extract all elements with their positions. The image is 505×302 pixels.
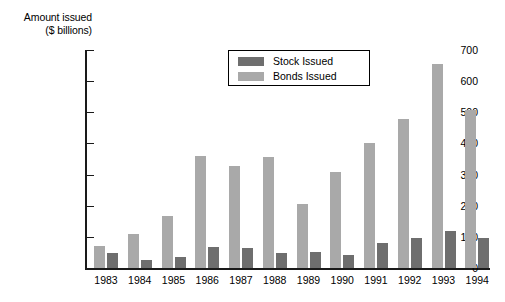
bar-bonds-1989: [297, 204, 308, 268]
legend-item-stock: Stock Issued: [238, 55, 369, 68]
y-tick-300: [87, 175, 94, 176]
bar-stock-1992: [411, 238, 422, 268]
y-tick-500: [87, 112, 94, 113]
x-axis-label-1994: 1994: [453, 274, 501, 286]
bar-stock-1991: [377, 243, 388, 268]
x-axis-line: [85, 268, 490, 270]
bar-stock-1988: [276, 253, 287, 268]
bar-bonds-1993: [432, 64, 443, 268]
bar-bonds-1985: [162, 216, 173, 268]
y-tick-200: [87, 206, 94, 207]
bar-bonds-1987: [229, 166, 240, 268]
chart-legend: Stock Issued Bonds Issued: [228, 50, 370, 86]
bar-stock-1987: [242, 248, 253, 268]
bar-bonds-1984: [128, 234, 139, 268]
y-axis-title: Amount issued ($ billions): [0, 11, 92, 37]
legend-label-stock: Stock Issued: [273, 56, 333, 67]
bar-stock-1986: [208, 247, 219, 268]
y-tick-400: [87, 143, 94, 144]
y-axis-title-line1: Amount issued: [0, 11, 92, 24]
y-tick-label-700: 700: [434, 45, 478, 55]
legend-label-bonds: Bonds Issued: [273, 71, 337, 82]
bar-bonds-1990: [330, 172, 341, 268]
bar-chart: Amount issued ($ billions) 0100200300400…: [0, 0, 505, 302]
bar-bonds-1988: [263, 157, 274, 268]
y-axis-title-line2: ($ billions): [0, 24, 92, 37]
bar-stock-1994: [478, 238, 489, 268]
y-tick-600: [87, 81, 94, 82]
bar-bonds-1991: [364, 143, 375, 268]
y-tick-700: [87, 50, 94, 51]
y-axis-line: [85, 50, 87, 268]
bar-stock-1984: [141, 260, 152, 268]
bar-bonds-1994: [465, 110, 476, 268]
legend-swatch-stock-icon: [238, 57, 264, 66]
legend-swatch-bonds-icon: [238, 72, 264, 81]
legend-item-bonds: Bonds Issued: [238, 70, 369, 83]
bar-stock-1985: [175, 257, 186, 268]
bar-stock-1983: [107, 253, 118, 268]
bar-bonds-1986: [195, 156, 206, 268]
bar-stock-1989: [310, 252, 321, 268]
bar-bonds-1983: [94, 246, 105, 268]
bar-stock-1990: [343, 255, 354, 268]
y-tick-100: [87, 237, 94, 238]
bar-stock-1993: [445, 231, 456, 268]
bar-bonds-1992: [398, 119, 409, 268]
